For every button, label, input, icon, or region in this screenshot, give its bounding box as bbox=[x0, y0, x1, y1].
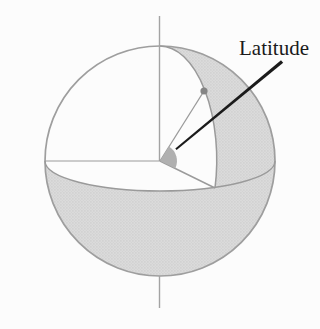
sphere-figure: Latitude bbox=[0, 0, 320, 329]
latitude-label: Latitude bbox=[239, 36, 309, 60]
eastern-surface-shading bbox=[160, 46, 275, 188]
equator-cut-edge-line bbox=[160, 161, 215, 188]
surface-point-dot bbox=[200, 87, 207, 94]
latitude-diagram: Latitude bbox=[0, 0, 320, 329]
